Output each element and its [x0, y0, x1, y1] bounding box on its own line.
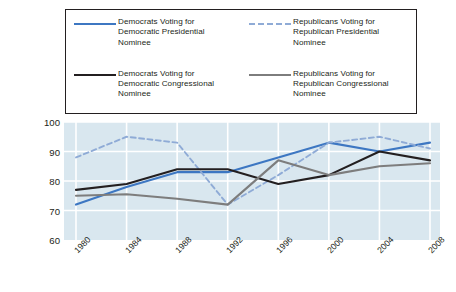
legend-label-dem-presidential: Democrats Voting for Democratic Presiden…: [118, 17, 237, 48]
legend-swatch-rep-presidential-icon: [249, 18, 293, 29]
plot-area: [64, 122, 440, 240]
legend-swatch-dem-presidential-icon: [74, 18, 118, 29]
y-axis-ticks: 10090807060: [26, 122, 60, 240]
chart-legend: Democrats Voting for Democratic Presiden…: [65, 9, 417, 114]
legend-item-dem-congressional: Democrats Voting for Democratic Congress…: [66, 62, 241, 114]
y-tick-label: 100: [32, 117, 60, 128]
legend-label-dem-congressional: Democrats Voting for Democratic Congress…: [118, 69, 237, 100]
series-line-2: [76, 152, 430, 190]
legend-item-rep-presidential: Republicans Voting for Republican Presid…: [241, 10, 416, 62]
legend-swatch-rep-congressional-icon: [249, 70, 293, 81]
legend-swatch-dem-congressional-icon: [74, 70, 118, 81]
legend-item-rep-congressional: Republicans Voting for Republican Congre…: [241, 62, 416, 114]
y-tick-label: 60: [32, 235, 60, 246]
x-axis-ticks: 19801984198819921996200020042008: [64, 244, 440, 288]
y-tick-label: 80: [32, 176, 60, 187]
legend-item-dem-presidential: Democrats Voting for Democratic Presiden…: [66, 10, 241, 62]
legend-label-rep-congressional: Republicans Voting for Republican Congre…: [293, 69, 412, 100]
y-tick-label: 70: [32, 205, 60, 216]
legend-label-rep-presidential: Republicans Voting for Republican Presid…: [293, 17, 412, 48]
y-tick-label: 90: [32, 146, 60, 157]
chart-lines: [64, 122, 440, 240]
chart-page: Democrats Voting for Democratic Presiden…: [0, 0, 456, 292]
